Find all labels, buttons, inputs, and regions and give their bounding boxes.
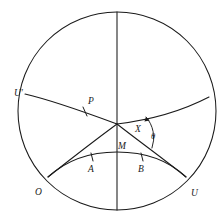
figure-container: U′ P X θ M A B O U: [0, 0, 222, 221]
arc-u-prime-branch: [25, 94, 117, 124]
label-theta: θ: [151, 131, 155, 141]
label-a: A: [87, 164, 94, 174]
label-o: O: [35, 187, 42, 197]
arc-right-rim-branch: [117, 97, 209, 124]
label-u-prime: U′: [14, 88, 24, 98]
label-b: B: [138, 164, 144, 174]
geometry-diagram: U′ P X θ M A B O U: [0, 0, 222, 221]
label-p: P: [87, 96, 94, 106]
label-x: X: [134, 124, 142, 134]
label-m: M: [117, 141, 127, 151]
label-u: U: [191, 188, 199, 198]
